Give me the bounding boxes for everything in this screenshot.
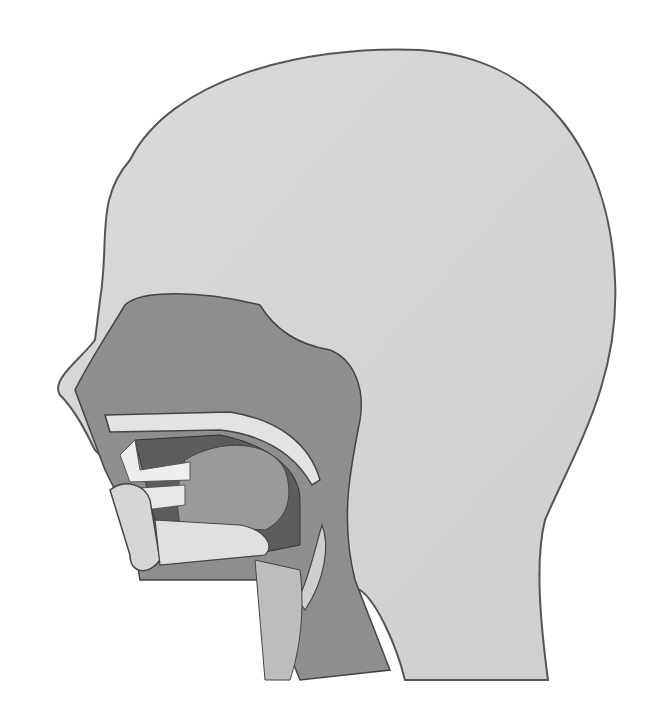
bottom-fade — [0, 600, 649, 714]
tongue — [178, 445, 289, 530]
anatomy-illustration — [0, 0, 649, 714]
head-diagram — [0, 0, 649, 714]
